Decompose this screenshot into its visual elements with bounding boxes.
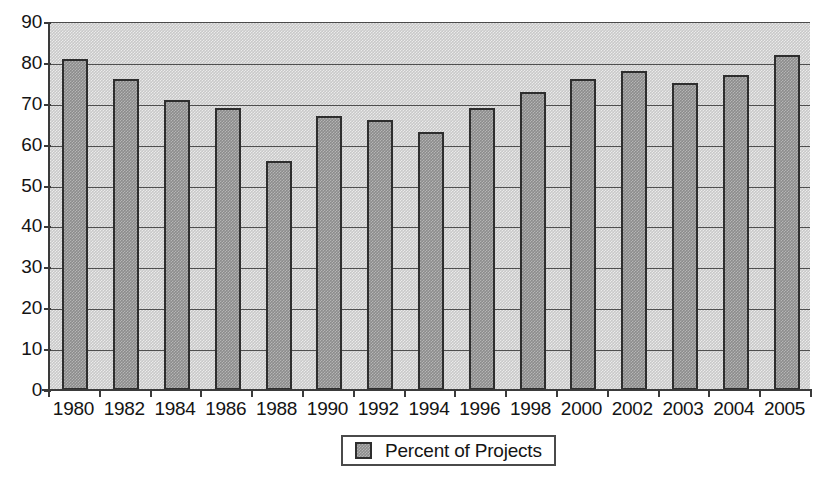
x-tick-mark [759, 389, 761, 397]
x-tick-mark [200, 389, 202, 397]
bar [62, 59, 88, 390]
gridline [50, 64, 810, 65]
bar-chart: 0102030405060708090 19801982198419861988… [0, 0, 832, 483]
bar [570, 79, 596, 390]
bar [672, 83, 698, 390]
x-tick-label: 1994 [404, 398, 455, 419]
bar [774, 55, 800, 390]
y-tick-mark [44, 267, 51, 269]
y-tick-label: 30 [0, 257, 42, 276]
x-tick-label: 2005 [759, 398, 810, 419]
x-tick-label: 2000 [556, 398, 607, 419]
bar [723, 75, 749, 390]
y-tick-mark [44, 308, 51, 310]
bar [215, 108, 241, 390]
x-tick-mark [48, 389, 50, 397]
x-tick-mark [150, 389, 152, 397]
y-tick-label: 90 [0, 12, 42, 31]
bar [418, 132, 444, 390]
x-tick-mark [607, 389, 609, 397]
x-tick-label: 1998 [505, 398, 556, 419]
bar [266, 161, 292, 390]
x-tick-label: 1996 [454, 398, 505, 419]
x-tick-mark [505, 389, 507, 397]
y-tick-label: 10 [0, 339, 42, 358]
y-tick-label: 20 [0, 298, 42, 317]
x-tick-mark [810, 389, 812, 397]
x-tick-label: 2002 [607, 398, 658, 419]
legend-label-percent-of-projects: Percent of Projects [385, 440, 542, 461]
x-tick-mark [708, 389, 710, 397]
y-tick-mark [44, 349, 51, 351]
x-tick-mark [251, 389, 253, 397]
x-tick-label: 1980 [48, 398, 99, 419]
y-tick-mark [44, 186, 51, 188]
x-tick-mark [99, 389, 101, 397]
bar [469, 108, 495, 390]
y-tick-label: 0 [0, 380, 42, 399]
y-tick-label: 60 [0, 135, 42, 154]
x-tick-label: 1990 [302, 398, 353, 419]
x-axis-baseline [42, 389, 812, 391]
x-tick-label: 1982 [99, 398, 150, 419]
x-tick-mark [404, 389, 406, 397]
y-tick-label: 70 [0, 94, 42, 113]
x-tick-label: 2004 [708, 398, 759, 419]
y-tick-label: 50 [0, 176, 42, 195]
y-tick-mark [44, 145, 51, 147]
y-tick-mark [44, 63, 51, 65]
bar [520, 92, 546, 390]
x-tick-label: 1992 [353, 398, 404, 419]
x-tick-label: 1988 [251, 398, 302, 419]
x-tick-mark [658, 389, 660, 397]
y-tick-mark [44, 226, 51, 228]
x-tick-mark [556, 389, 558, 397]
x-tick-mark [353, 389, 355, 397]
x-tick-mark [302, 389, 304, 397]
bar [621, 71, 647, 390]
bar [367, 120, 393, 390]
x-tick-mark [454, 389, 456, 397]
bar [113, 79, 139, 390]
bar [164, 100, 190, 390]
y-tick-label: 80 [0, 53, 42, 72]
y-tick-mark [44, 104, 51, 106]
y-axis: 0102030405060708090 [0, 0, 42, 400]
plot-area [48, 22, 810, 390]
x-tick-label: 1986 [200, 398, 251, 419]
bar [316, 116, 342, 390]
legend-swatch-percent-of-projects [355, 442, 372, 459]
x-tick-label: 1984 [150, 398, 201, 419]
x-tick-label: 2003 [658, 398, 709, 419]
y-tick-label: 40 [0, 216, 42, 235]
y-tick-mark [44, 22, 51, 24]
chart-legend: Percent of Projects [341, 435, 556, 466]
x-axis: 1980198219841986198819901992199419961998… [48, 398, 810, 426]
